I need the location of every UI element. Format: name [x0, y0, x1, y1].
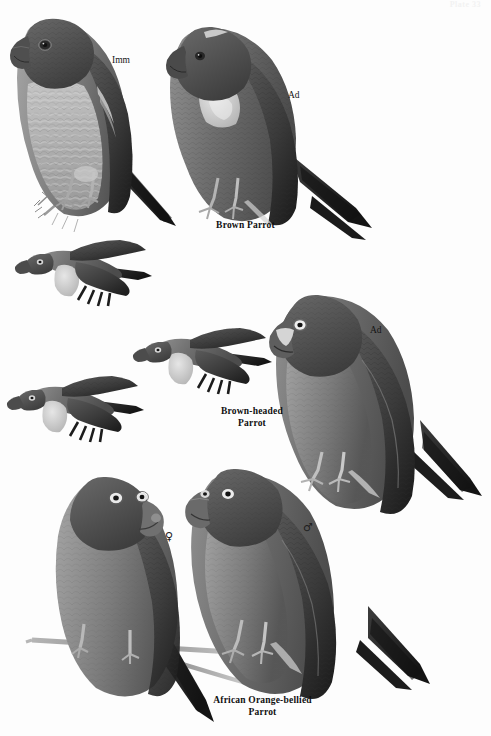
underwing-patch: [42, 401, 67, 432]
caption-african-orange-bellied-parrot: African Orange-bellied Parrot: [180, 695, 345, 718]
plate-page: Plate 33 Imm Ad Brown Parrot Ad Brown-he…: [0, 0, 491, 736]
beak: [10, 36, 31, 69]
beak: [166, 46, 188, 79]
caption-brown-headed-parrot: Brown-headed Parrot: [182, 406, 322, 429]
figure-brown-parrot-adult: [166, 27, 372, 240]
figure-brown-parrot-immature: [10, 19, 176, 232]
plate-number: Plate 33: [450, 0, 481, 9]
figure-brown-headed-flying-middle: [133, 328, 272, 394]
label-immature-brown-parrot: Imm: [112, 55, 130, 65]
tail: [420, 420, 482, 496]
label-adult-brown-parrot: Ad: [288, 90, 300, 100]
figure-brown-headed-flying-lower: [7, 376, 144, 442]
plate-illustration: [0, 0, 491, 736]
underwing-patch: [168, 353, 193, 384]
male-symbol: ♂: [303, 521, 313, 534]
label-adult-brown-headed-parrot: Ad: [370, 325, 382, 335]
caption-brown-parrot: Brown Parrot: [0, 220, 491, 232]
female-symbol: ♀: [165, 530, 173, 543]
figure-brown-parrot-flying: [15, 240, 152, 306]
